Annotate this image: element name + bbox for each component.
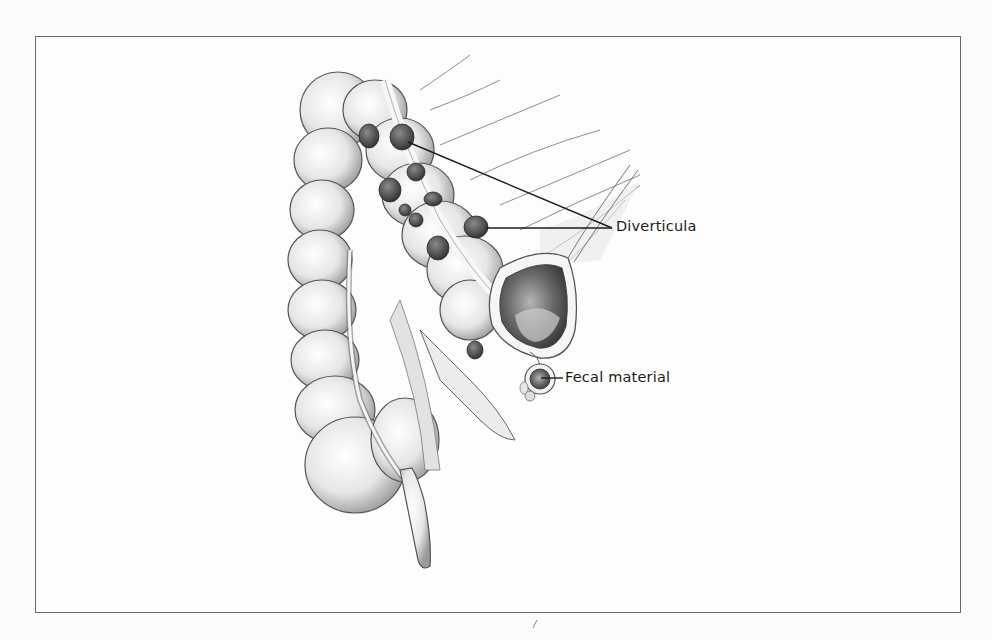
bowel-cross-section [489, 165, 638, 358]
appendix [400, 468, 430, 568]
label-fecal-material: Fecal material [565, 369, 670, 385]
colon-illustration [0, 0, 992, 640]
diverticular-segment [343, 80, 503, 340]
scan-mark [533, 620, 537, 628]
fecal-material-section [520, 352, 555, 401]
label-diverticula: Diverticula [616, 218, 697, 234]
